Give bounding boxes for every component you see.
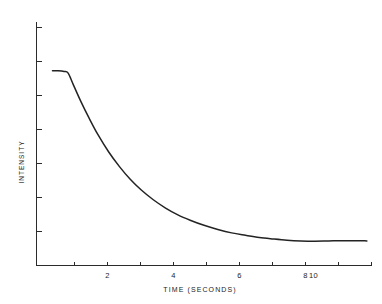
chart-figure: 2 4 6 8 10 TIME (SECONDS) INTENSITY — [0, 0, 382, 304]
x-tick-marks — [75, 262, 372, 266]
intensity-decay-curve — [52, 71, 366, 242]
axes-group — [36, 22, 371, 266]
x-tick-label-8: 8 — [303, 271, 308, 280]
x-tick-label-6: 6 — [237, 271, 242, 280]
x-tick-label-10: 10 — [309, 271, 318, 280]
x-tick-labels: 2 4 6 8 10 — [105, 271, 318, 280]
x-tick-label-2: 2 — [105, 271, 110, 280]
y-tick-marks — [37, 28, 42, 232]
intensity-vs-time-line-chart: 2 4 6 8 10 TIME (SECONDS) INTENSITY — [0, 0, 382, 304]
x-tick-label-4: 4 — [171, 271, 176, 280]
y-axis-title: INTENSITY — [18, 141, 25, 184]
x-axis-title: TIME (SECONDS) — [163, 286, 236, 294]
